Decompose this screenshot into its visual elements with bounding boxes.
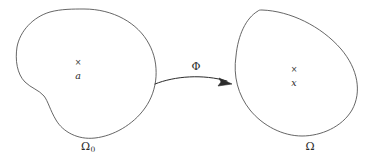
deformation-diagram: × a Ω0 Φ × x Ω: [0, 0, 368, 161]
reference-domain-outline: [16, 9, 156, 138]
current-domain-label: Ω: [305, 141, 314, 152]
mapping-label: Φ: [191, 61, 200, 72]
current-point-marker: ×: [291, 66, 298, 74]
reference-point-label: a: [75, 71, 81, 81]
reference-domain-symbol: Ω: [81, 140, 90, 153]
mapping-arrow-shaft: [155, 77, 227, 84]
current-point-label: x: [291, 78, 296, 88]
reference-domain-subscript: 0: [90, 145, 95, 154]
reference-domain-label: Ω0: [81, 141, 95, 152]
diagram-canvas: [0, 0, 368, 161]
reference-point-marker: ×: [75, 59, 82, 67]
mapping-arrow-head: [218, 78, 232, 86]
